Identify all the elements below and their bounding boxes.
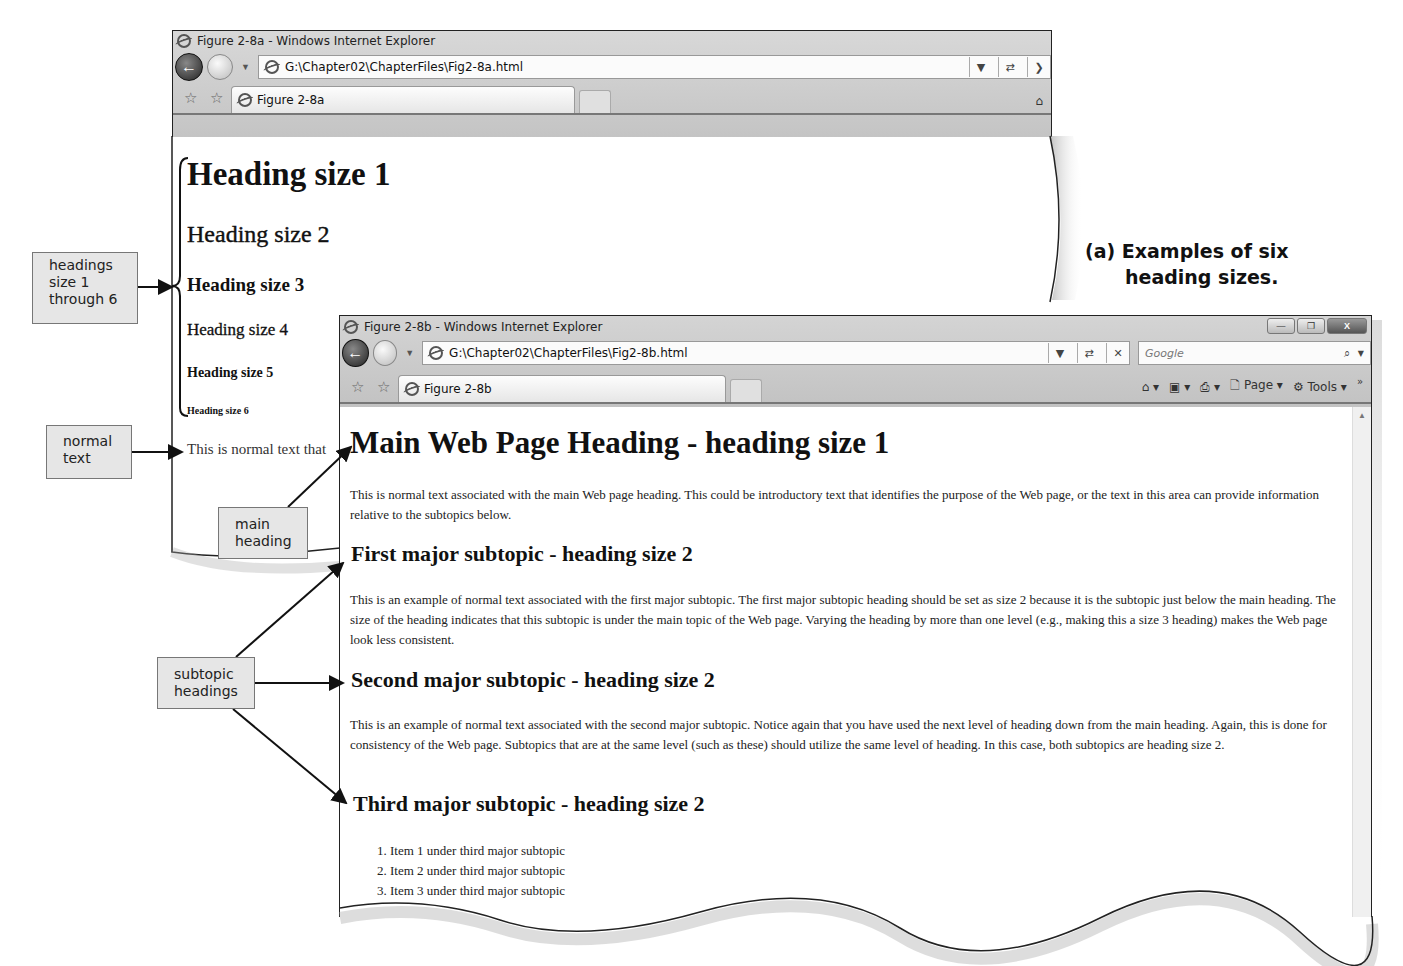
print-icon[interactable]: ⎙ ▾: [1200, 380, 1220, 394]
refresh-icon[interactable]: ⇄: [1077, 343, 1100, 363]
page-content-b: ▲ Main Web Page Heading - heading size 1…: [339, 407, 1372, 917]
heading-size-3: Heading size 3: [187, 274, 304, 296]
search-icon[interactable]: ⌕: [1344, 347, 1350, 360]
callout-line: normal: [63, 433, 131, 450]
normal-text-a: This is normal text that: [187, 441, 326, 458]
address-dropdown-icon[interactable]: ▼: [969, 57, 992, 77]
home-icon[interactable]: ⌂ ▾: [1142, 380, 1159, 394]
command-bar: ⌂ ▾ ▣ ▾ ⎙ ▾ 🗋 Page ▾ ⚙ Tools ▾ »: [766, 376, 1371, 402]
callout-main-heading: main heading: [218, 507, 308, 559]
search-placeholder: Google: [1145, 347, 1184, 360]
callout-line: subtopic: [174, 666, 254, 683]
subtopic-paragraph-1: This is an example of normal text associ…: [350, 590, 1343, 650]
back-arrow-icon: ←: [347, 344, 363, 362]
subtopic-heading-3: Third major subtopic - heading size 2: [353, 791, 705, 817]
tab-ie-icon: [238, 93, 252, 107]
page-ie-icon: [429, 346, 443, 360]
figure-caption: (a) Examples of six heading sizes.: [1085, 238, 1325, 290]
scroll-up-icon[interactable]: ▲: [1353, 407, 1371, 420]
toolbar-overflow-icon[interactable]: »: [1357, 376, 1363, 387]
subtopic-heading-1: First major subtopic - heading size 2: [351, 541, 693, 567]
page-menu-label: Page: [1244, 378, 1273, 392]
favorites-star-icon[interactable]: ☆: [346, 378, 368, 402]
callout-line: text: [63, 450, 131, 467]
subtopic-heading-2: Second major subtopic - heading size 2: [351, 667, 715, 693]
tab-row-a: ☆ ☆ Figure 2-8a ⌂: [173, 83, 1051, 115]
tools-menu[interactable]: ⚙ Tools ▾: [1293, 380, 1347, 394]
gear-icon: ⚙: [1293, 380, 1304, 394]
tab-figure-2-8b[interactable]: Figure 2-8b: [398, 375, 726, 402]
browser-chrome-a: Figure 2-8a - Windows Internet Explorer …: [172, 30, 1052, 137]
heading-size-5: Heading size 5: [187, 365, 273, 381]
heading-size-2: Heading size 2: [187, 221, 330, 248]
tab-label-b: Figure 2-8b: [424, 382, 492, 396]
tab-figure-2-8a[interactable]: Figure 2-8a: [231, 86, 575, 113]
page-menu[interactable]: 🗋 Page ▾: [1230, 376, 1283, 397]
browser-window-b: Figure 2-8b - Windows Internet Explorer …: [339, 315, 1372, 940]
callout-line: through 6: [49, 291, 137, 308]
heading-size-4: Heading size 4: [187, 320, 288, 340]
toolbar-a: ⌂: [615, 94, 1051, 113]
tab-label-a: Figure 2-8a: [257, 93, 324, 107]
forward-button[interactable]: [373, 340, 398, 366]
forward-button[interactable]: [207, 54, 233, 80]
search-dropdown-icon[interactable]: ▼: [1358, 349, 1364, 358]
heading-size-1: Heading size 1: [187, 156, 391, 193]
tab-row-b: ☆ ☆ Figure 2-8b ⌂ ▾ ▣ ▾ ⎙ ▾ 🗋 Page ▾ ⚙ T…: [340, 368, 1371, 404]
address-dropdown-icon[interactable]: ▼: [1048, 343, 1071, 363]
add-favorites-icon[interactable]: ☆: [205, 89, 227, 113]
list-item: Item 2 under third major subtopic: [390, 861, 565, 881]
search-input[interactable]: Google ⌕ ▼: [1138, 341, 1371, 365]
callout-headings-range: headings size 1 through 6: [32, 252, 138, 324]
tab-ie-icon: [405, 382, 419, 396]
address-bar-b[interactable]: G:\Chapter02\ChapterFiles\Fig2-8b.html ▼…: [422, 341, 1130, 365]
restore-button[interactable]: ❐: [1297, 318, 1325, 334]
callout-line: headings: [174, 683, 254, 700]
favorites-star-icon[interactable]: ☆: [179, 89, 201, 113]
history-dropdown-icon[interactable]: ▼: [237, 62, 254, 72]
new-tab-button[interactable]: [579, 90, 611, 113]
window-title-a: Figure 2-8a - Windows Internet Explorer: [197, 34, 435, 48]
nav-row-b: ← ▼ G:\Chapter02\ChapterFiles\Fig2-8b.ht…: [340, 338, 1371, 368]
callout-normal-text: normal text: [46, 425, 132, 479]
ie-icon: [344, 320, 358, 334]
browser-chrome-b: Figure 2-8b - Windows Internet Explorer …: [339, 315, 1372, 408]
page-icon: 🗋: [1230, 378, 1240, 392]
callout-line: size 1: [49, 274, 137, 291]
close-button[interactable]: X: [1327, 318, 1367, 334]
back-button[interactable]: ←: [175, 53, 203, 81]
ie-icon: [177, 34, 191, 48]
window-controls: — ❐ X: [1267, 318, 1367, 334]
feeds-icon[interactable]: ▣ ▾: [1169, 380, 1190, 394]
back-arrow-icon: ←: [181, 58, 197, 76]
stop-icon[interactable]: ✕: [1106, 343, 1129, 363]
caption-line-2: heading sizes.: [1085, 264, 1325, 290]
title-bar-a: Figure 2-8a - Windows Internet Explorer: [173, 31, 1051, 51]
new-tab-button[interactable]: [730, 379, 762, 402]
refresh-icon[interactable]: ⇄: [998, 57, 1021, 77]
add-favorites-icon[interactable]: ☆: [372, 378, 394, 402]
address-text-b: G:\Chapter02\ChapterFiles\Fig2-8b.html: [449, 346, 687, 360]
vertical-scrollbar[interactable]: ▲: [1352, 407, 1371, 917]
minimize-button[interactable]: —: [1267, 318, 1295, 334]
callout-line: heading: [235, 533, 307, 550]
caption-line-1: (a) Examples of six: [1085, 240, 1289, 262]
list-item: Item 3 under third major subtopic: [390, 881, 565, 901]
callout-line: main: [235, 516, 307, 533]
main-heading: Main Web Page Heading - heading size 1: [350, 425, 889, 461]
stop-icon[interactable]: ❯: [1027, 57, 1050, 77]
back-button[interactable]: ←: [342, 339, 369, 367]
list-item: Item 1 under third major subtopic: [390, 841, 565, 861]
tools-menu-label: Tools: [1307, 380, 1337, 394]
intro-paragraph: This is normal text associated with the …: [350, 485, 1343, 525]
address-text-a: G:\Chapter02\ChapterFiles\Fig2-8a.html: [285, 60, 523, 74]
page-ie-icon: [265, 60, 279, 74]
callout-subtopic-headings: subtopic headings: [157, 657, 255, 709]
window-title-b: Figure 2-8b - Windows Internet Explorer: [364, 320, 602, 334]
address-bar-a[interactable]: G:\Chapter02\ChapterFiles\Fig2-8a.html ▼…: [258, 55, 1051, 79]
heading-size-6: Heading size 6: [187, 405, 249, 416]
title-bar-b: Figure 2-8b - Windows Internet Explorer: [340, 316, 1371, 338]
home-icon[interactable]: ⌂: [1035, 94, 1043, 108]
callout-line: headings: [49, 257, 137, 274]
history-dropdown-icon[interactable]: ▼: [401, 348, 418, 358]
